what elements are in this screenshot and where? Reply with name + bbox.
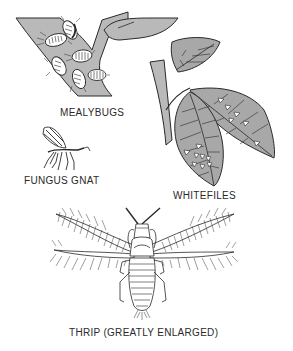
thrip-icon [50,208,238,320]
label-whiteflies: WHITEFILES [173,190,236,201]
whiteflies-on-leaves-icon [150,38,275,187]
label-mealybugs: MEALYBUGS [60,107,124,118]
label-thrip: THRIP (GREATLY ENLARGED) [69,327,218,338]
mealybug-on-branch-icon [16,12,178,96]
fungus-gnat-icon [43,127,90,170]
label-fungus-gnat: FUNGUS GNAT [24,175,99,186]
